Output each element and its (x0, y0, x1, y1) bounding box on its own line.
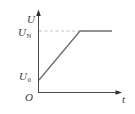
u-t-line-chart (0, 0, 135, 114)
figure-root: U UN U0 O t (0, 0, 135, 114)
y-axis-arrow-icon (36, 10, 41, 17)
y-tick-initial-main: U (19, 70, 27, 82)
x-axis-label: t (122, 94, 125, 105)
y-tick-label-nominal: UN (18, 27, 31, 38)
voltage-curve (39, 31, 112, 80)
origin-label: O (25, 92, 33, 103)
y-tick-label-initial: U0 (19, 71, 30, 82)
y-tick-nominal-subscript: N (26, 32, 31, 39)
y-tick-nominal-main: U (18, 26, 26, 38)
y-tick-initial-subscript: 0 (27, 76, 30, 83)
y-axis-label: U (27, 14, 35, 25)
